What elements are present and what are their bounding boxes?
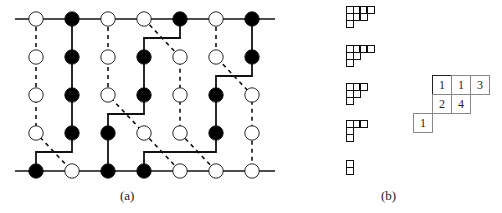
open-node xyxy=(137,126,151,140)
diagram-cell xyxy=(346,167,354,175)
diagram-cell xyxy=(360,83,368,91)
open-node xyxy=(101,88,115,102)
open-node xyxy=(173,88,187,102)
filled-node xyxy=(65,50,79,64)
tableau-cell: 3 xyxy=(470,75,490,95)
open-node xyxy=(209,164,223,178)
caption-b: (b) xyxy=(381,188,396,204)
diagram-cell xyxy=(353,90,361,98)
solid-path xyxy=(144,19,252,171)
open-node xyxy=(245,164,259,178)
open-node xyxy=(65,164,79,178)
filled-node xyxy=(173,12,187,26)
open-node xyxy=(29,88,43,102)
filled-node xyxy=(29,164,43,178)
diagram-cell xyxy=(346,97,354,105)
tableau-cell: 1 xyxy=(413,113,433,133)
filled-node xyxy=(209,126,223,140)
open-node xyxy=(173,50,187,64)
filled-node xyxy=(245,50,259,64)
filled-node xyxy=(209,88,223,102)
filled-node xyxy=(137,164,151,178)
open-node xyxy=(29,12,43,26)
caption-a: (a) xyxy=(120,188,134,204)
open-node xyxy=(209,12,223,26)
open-node xyxy=(101,50,115,64)
diagram-cell xyxy=(360,120,368,128)
open-node xyxy=(245,88,259,102)
filled-node xyxy=(101,126,115,140)
tableau-cell: 1 xyxy=(451,75,471,95)
filled-node xyxy=(137,88,151,102)
filled-node xyxy=(137,50,151,64)
filled-node xyxy=(65,12,79,26)
open-node xyxy=(173,164,187,178)
open-node xyxy=(29,126,43,140)
diagram-cell xyxy=(346,134,354,142)
diagram-cell xyxy=(346,20,354,28)
filled-node xyxy=(65,126,79,140)
open-node xyxy=(209,50,223,64)
open-node xyxy=(137,12,151,26)
filled-node xyxy=(65,88,79,102)
diagram-cell xyxy=(353,52,361,60)
filled-node xyxy=(245,12,259,26)
tableau-cell: 4 xyxy=(451,94,471,114)
diagram-cell xyxy=(367,6,375,14)
open-node xyxy=(101,12,115,26)
tableau-cell: 1 xyxy=(432,75,452,95)
open-node xyxy=(245,126,259,140)
diagram-cell xyxy=(367,45,375,53)
diagram-cell xyxy=(346,59,354,67)
filled-node xyxy=(101,164,115,178)
lattice-path-diagram xyxy=(0,0,290,190)
diagram-cell xyxy=(360,13,368,21)
open-node xyxy=(29,50,43,64)
open-node xyxy=(173,126,187,140)
tableau-cell: 2 xyxy=(432,94,452,114)
